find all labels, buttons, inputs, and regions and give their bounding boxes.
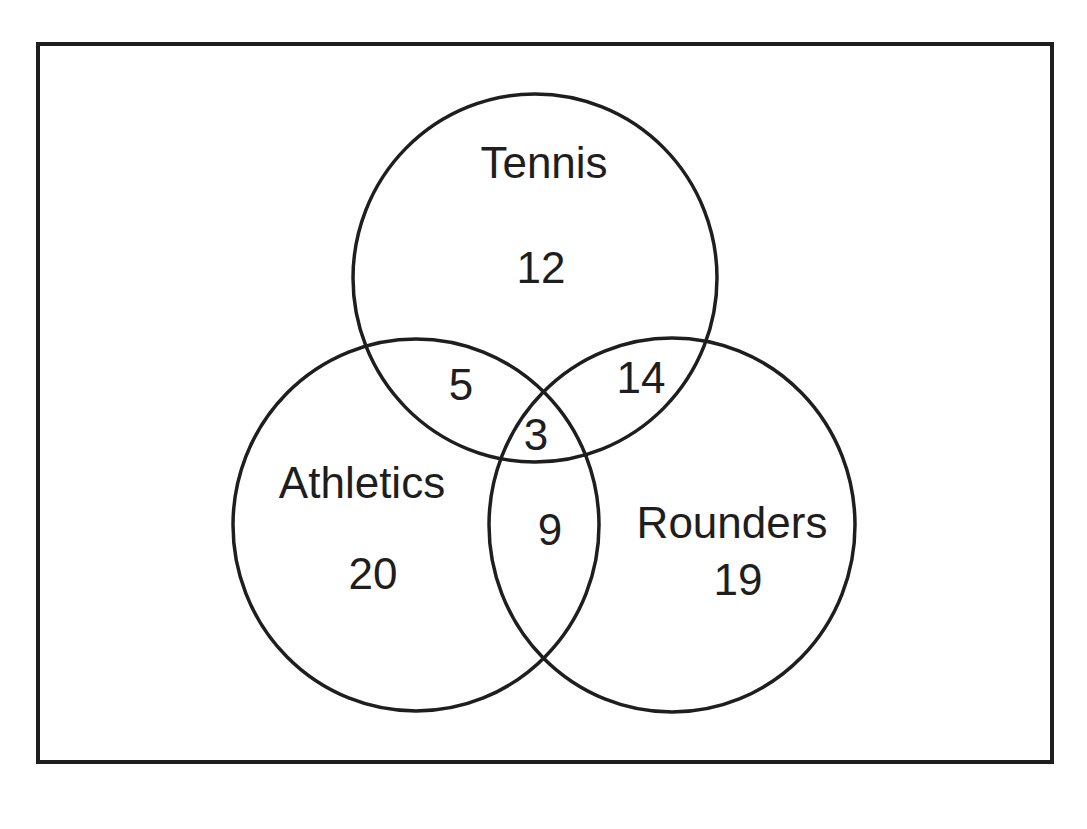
- rounders-only-count: 19: [714, 555, 763, 604]
- tennis-only-count: 12: [517, 243, 566, 292]
- tennis-athletics-count: 5: [449, 360, 473, 409]
- athletics-label: Athletics: [279, 458, 445, 507]
- athletics-rounders-count: 9: [538, 505, 562, 554]
- rounders-label: Rounders: [637, 498, 828, 547]
- athletics-only-count: 20: [349, 549, 398, 598]
- venn-diagram-canvas: Tennis Athletics Rounders 12 20 19 5 14 …: [0, 0, 1087, 829]
- tennis-label: Tennis: [480, 138, 607, 187]
- all-three-count: 3: [524, 410, 548, 459]
- venn-diagram: Tennis Athletics Rounders 12 20 19 5 14 …: [0, 0, 1087, 829]
- tennis-rounders-count: 14: [617, 353, 666, 402]
